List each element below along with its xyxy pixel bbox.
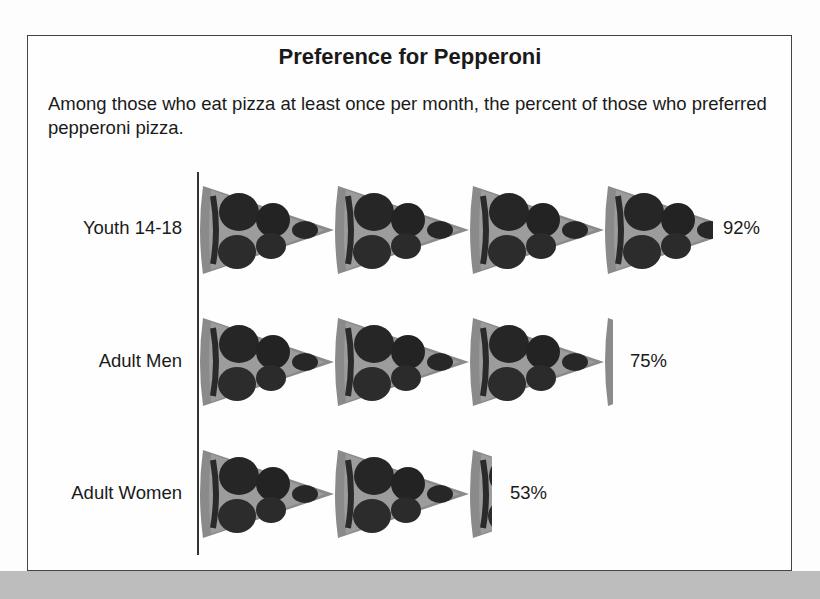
pizza-slice-icon <box>334 180 469 280</box>
pizza-slice-icon-partial <box>604 312 613 412</box>
chart-title: Preference for Pepperoni <box>0 44 820 70</box>
pizza-slice-icon <box>469 312 604 412</box>
value-label-youth: 92% <box>723 217 760 239</box>
category-label-adult-men: Adult Men <box>99 350 182 372</box>
pizza-slice-icon-partial <box>469 444 492 544</box>
pizza-slice-icon <box>469 180 604 280</box>
background-band <box>0 571 820 599</box>
category-label-adult-women: Adult Women <box>71 482 182 504</box>
pizza-slice-icon <box>199 312 334 412</box>
value-label-adult-men: 75% <box>630 350 667 372</box>
pizza-slice-icon <box>334 312 469 412</box>
category-label-youth: Youth 14-18 <box>83 217 182 239</box>
pizza-slice-icon <box>334 444 469 544</box>
chart-subtitle: Among those who eat pizza at least once … <box>48 92 788 140</box>
pizza-slice-icon <box>199 444 334 544</box>
pizza-slice-icon <box>199 180 334 280</box>
pizza-slice-icon-partial <box>604 180 713 280</box>
value-label-adult-women: 53% <box>510 482 547 504</box>
